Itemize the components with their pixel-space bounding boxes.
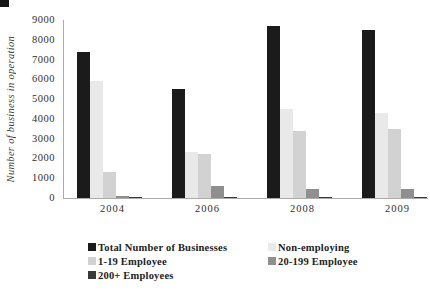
legend-label: 1-19 Employee [98,256,167,267]
y-tick-label: 4000 [0,113,55,125]
y-tick-label: 8000 [0,34,55,46]
legend-swatch-icon [268,243,276,251]
legend-item-200-employees: 200+ Employees [88,268,268,282]
y-tick-label: 9000 [0,14,55,26]
bar-non-employing-2004 [90,81,103,198]
x-tick-label-2006: 2006 [183,203,233,214]
bar-total-number-of-businesses-2008 [267,26,280,198]
bar-200-employees-2008 [319,197,332,198]
y-axis: 0100020003000400050006000700080009000 [0,20,58,198]
x-tick-label-2008: 2008 [278,203,328,214]
bar-non-employing-2008 [280,109,293,198]
bar-total-number-of-businesses-2004 [77,52,90,198]
chart-figure: Number of business in operation 01000200… [0,0,430,295]
legend-label: Total Number of Businesses [98,242,227,253]
bar-20-199-employee-2009 [401,189,414,198]
bar-20-199-employee-2008 [306,189,319,198]
bar-1-19-employee-2006 [198,154,211,198]
legend-swatch-icon [88,257,96,265]
y-tick-label: 1000 [0,172,55,184]
legend-item-total-number-of-businesses: Total Number of Businesses [88,240,268,254]
bar-200-employees-2009 [414,197,427,198]
bar-non-employing-2006 [185,152,198,198]
y-tick-label: 3000 [0,133,55,145]
bar-1-19-employee-2004 [103,172,116,198]
bar-20-199-employee-2004 [116,196,129,198]
legend-item-1-19-employee: 1-19 Employee [88,254,268,268]
legend-label: Non-employing [278,242,349,253]
legend-label: 20-199 Employee [278,256,358,267]
bar-total-number-of-businesses-2006 [172,89,185,198]
legend-swatch-icon [268,257,276,265]
legend-item-non-employing: Non-employing [268,240,424,254]
y-tick-label: 7000 [0,54,55,66]
corner-artifact-mark [0,0,9,7]
x-axis: 2004200620082009 [0,203,430,217]
legend: Total Number of BusinessesNon-employing1… [88,240,424,282]
legend-swatch-icon [88,243,96,251]
legend-label: 200+ Employees [98,270,174,281]
y-tick-label: 2000 [0,152,55,164]
x-tick-label-2009: 2009 [373,203,423,214]
bar-200-employees-2004 [129,197,142,198]
bar-1-19-employee-2009 [388,129,401,198]
bar-non-employing-2009 [375,113,388,198]
y-tick-label: 6000 [0,73,55,85]
bar-20-199-employee-2006 [211,186,224,198]
bar-total-number-of-businesses-2009 [362,30,375,198]
plot-area [63,20,428,199]
legend-swatch-icon [88,271,96,279]
x-tick-label-2004: 2004 [88,203,138,214]
legend-item-20-199-employee: 20-199 Employee [268,254,424,268]
y-tick-label: 5000 [0,93,55,105]
bar-200-employees-2006 [224,197,237,198]
bar-1-19-employee-2008 [293,131,306,198]
